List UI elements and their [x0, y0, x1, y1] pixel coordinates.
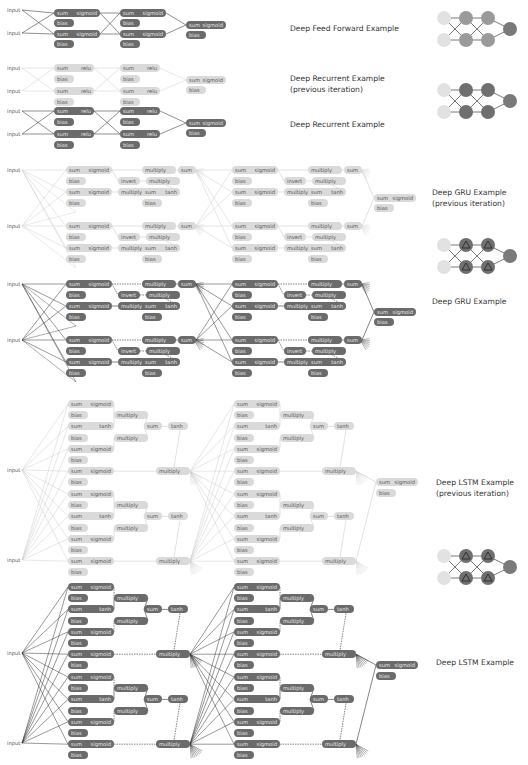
node-sum-sigmoid: sumsigmoid — [120, 9, 166, 17]
node-label-bias: bias — [123, 40, 134, 48]
node-label-bias: bias — [237, 478, 248, 486]
node-sum: sum — [310, 605, 328, 613]
node-sum-sigmoid: sumsigmoid — [68, 557, 114, 565]
node-label-tanh: tanh — [331, 244, 343, 252]
node-label-tanh: tanh — [171, 695, 183, 703]
node-label-multiply: multiply — [315, 291, 336, 299]
node-label-bias: bias — [71, 751, 82, 759]
node-bias: bias — [66, 291, 86, 299]
node-bias: bias — [376, 489, 396, 497]
node-label-multiply: multiply — [315, 177, 336, 185]
node-label-sigmoid: sigmoid — [257, 467, 277, 475]
section-title-gru_prev: Deep GRU Example — [432, 188, 507, 198]
node-bias: bias — [68, 729, 88, 737]
section-title-rnn: Deep Recurrent Example — [290, 120, 385, 130]
node-label-sigmoid: sigmoid — [255, 302, 275, 310]
node-tanh: tanh — [334, 512, 354, 520]
node-label-multiply: multiply — [145, 166, 166, 174]
node-bias: bias — [54, 40, 74, 48]
node-label-multiply: multiply — [121, 188, 142, 196]
node-sum: sum — [144, 422, 162, 430]
node-sum-sigmoid: sumsigmoid — [66, 358, 112, 366]
node-sum-tanh: sumtanh — [308, 358, 346, 366]
node-label-multiply: multiply — [283, 594, 304, 602]
node-label-bias: bias — [145, 313, 156, 321]
node-bias: bias — [54, 75, 74, 83]
node-multiply: multiply — [114, 501, 148, 509]
node-sum-tanh: sumtanh — [68, 695, 114, 703]
input-node: input — [4, 87, 28, 95]
node-label-sum: sum — [379, 478, 390, 486]
node-label-sigmoid: sigmoid — [91, 718, 111, 726]
node-label-sum: sum — [237, 400, 248, 408]
node-label-multiply: multiply — [121, 358, 142, 366]
node-bias: bias — [142, 313, 162, 321]
node-label-sum: sum — [147, 695, 158, 703]
node-multiply: multiply — [322, 557, 356, 565]
node-label-sigmoid: sigmoid — [257, 557, 277, 565]
node-label-sum: sum — [237, 490, 248, 498]
node-multiply: multiply — [322, 467, 356, 475]
node-label-sigmoid: sigmoid — [203, 119, 223, 127]
node-label-bias: bias — [237, 434, 248, 442]
node-sum-tanh: sumtanh — [142, 302, 180, 310]
node-label-multiply: multiply — [287, 188, 308, 196]
section-title-lstm_prev: (previous iteration) — [436, 489, 509, 499]
node-sum-sigmoid: sumsigmoid — [234, 650, 280, 658]
node-bias: bias — [68, 411, 88, 419]
node-label-invert: invert — [287, 233, 302, 241]
node-label-multiply: multiply — [325, 467, 346, 475]
node-sum: sum — [178, 280, 196, 288]
node-sum-tanh: sumtanh — [142, 358, 180, 366]
node-label-sum: sum — [71, 650, 82, 658]
node-multiply: multiply — [114, 594, 148, 602]
node-label-multiply: multiply — [145, 336, 166, 344]
node-multiply: multiply — [114, 524, 148, 532]
node-multiply: multiply — [114, 617, 148, 625]
node-label-sum: sum — [237, 628, 248, 636]
node-label-sum: sum — [237, 583, 248, 591]
node-label-sigmoid: sigmoid — [91, 673, 111, 681]
node-multiply: multiply — [156, 650, 190, 658]
node-label-tanh: tanh — [171, 512, 183, 520]
node-multiply: multiply — [142, 166, 176, 174]
input-node: input — [4, 556, 28, 564]
network-gated-icon — [436, 548, 526, 598]
node-label-relu: relu — [147, 130, 157, 138]
node-label-input: input — [7, 222, 20, 230]
node-bias: bias — [54, 141, 74, 149]
node-bias: bias — [68, 434, 88, 442]
node-sum-sigmoid: sumsigmoid — [66, 302, 112, 310]
node-label-bias: bias — [71, 546, 82, 554]
node-label-sum: sum — [57, 9, 68, 17]
node-tanh: tanh — [334, 605, 354, 613]
node-label-sum: sum — [237, 673, 248, 681]
node-label-tanh: tanh — [265, 512, 277, 520]
node-bias: bias — [66, 199, 86, 207]
node-label-bias: bias — [237, 568, 248, 576]
node-sum-sigmoid: sumsigmoid — [234, 490, 280, 498]
node-label-invert: invert — [287, 347, 302, 355]
network-recurrent-icon — [436, 82, 526, 132]
node-multiply: multiply — [114, 684, 148, 692]
node-label-input: input — [7, 280, 20, 288]
node-label-tanh: tanh — [165, 244, 177, 252]
node-label-sum: sum — [311, 244, 322, 252]
node-label-sigmoid: sigmoid — [91, 583, 111, 591]
node-sum-sigmoid: sumsigmoid — [186, 76, 226, 84]
node-sum: sum — [344, 280, 362, 288]
node-label-sigmoid: sigmoid — [203, 76, 223, 84]
node-bias: bias — [54, 98, 74, 106]
node-label-relu: relu — [147, 87, 157, 95]
node-label-sum: sum — [235, 166, 246, 174]
node-sum: sum — [144, 512, 162, 520]
node-label-sum: sum — [237, 740, 248, 748]
node-label-bias: bias — [311, 199, 322, 207]
node-label-sum: sum — [235, 358, 246, 366]
node-label-tanh: tanh — [337, 422, 349, 430]
node-multiply: multiply — [156, 557, 190, 565]
node-label-sum: sum — [347, 166, 358, 174]
node-bias: bias — [234, 684, 254, 692]
node-label-tanh: tanh — [265, 605, 277, 613]
node-sum-relu: sumrelu — [54, 87, 94, 95]
